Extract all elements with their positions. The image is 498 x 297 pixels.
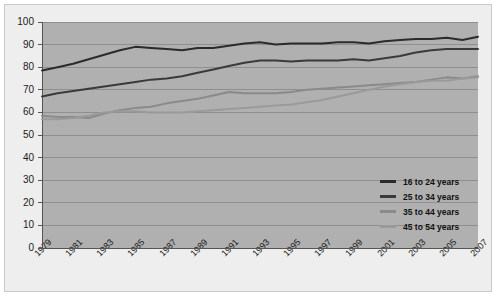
y-tick-label: 0 [4,243,34,253]
legend-swatch-icon [380,195,396,198]
legend-swatch-icon [380,225,396,228]
legend-item[interactable]: 25 to 34 years [380,189,484,204]
y-tick-label: 50 [4,130,34,140]
y-tick-label: 60 [4,107,34,117]
legend-item[interactable]: 35 to 44 years [380,204,484,219]
legend: 16 to 24 years25 to 34 years35 to 44 yea… [380,174,484,234]
y-tick-label: 70 [4,85,34,95]
y-tick-label: 80 [4,62,34,72]
y-tick-label: 10 [4,220,34,230]
y-tick-label: 90 [4,40,34,50]
legend-item[interactable]: 45 to 54 years [380,219,484,234]
legend-swatch-icon [380,180,396,183]
legend-label: 25 to 34 years [403,192,459,202]
legend-swatch-icon [380,210,396,213]
y-tick-label: 30 [4,175,34,185]
legend-item[interactable]: 16 to 24 years [380,174,484,189]
chart-container: 1009080706050403020100 19791981198319851… [0,0,498,297]
y-tick-label: 40 [4,153,34,163]
y-tick-label: 20 [4,198,34,208]
legend-label: 16 to 24 years [403,177,459,187]
legend-label: 45 to 54 years [403,222,459,232]
legend-label: 35 to 44 years [403,207,459,217]
y-tick-label: 100 [4,17,34,27]
